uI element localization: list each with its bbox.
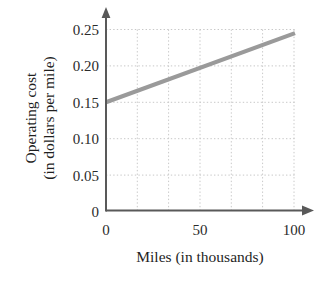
y-tick-label-0: 0	[92, 204, 100, 220]
y-tick-label-0.05: 0.05	[73, 168, 99, 184]
x-tick-label-50: 50	[193, 222, 208, 238]
y-axis-title-line1: Operating cost	[22, 72, 39, 164]
x-tick-label-100: 100	[283, 222, 306, 238]
y-tick-label-0.20: 0.20	[73, 58, 99, 74]
operating-cost-line-chart: 0.25 0.20 0.15 0.10 0.05 0 0 50 100 Mile…	[0, 0, 320, 281]
y-tick-label-0.25: 0.25	[73, 22, 99, 38]
chart-figure: 0.25 0.20 0.15 0.10 0.05 0 0 50 100 Mile…	[0, 0, 320, 281]
y-tick-label-0.10: 0.10	[73, 131, 99, 147]
x-axis-title: Miles (in thousands)	[136, 248, 263, 266]
y-axis-title-line2: (in dollars per mile)	[40, 56, 58, 180]
x-tick-label-0: 0	[102, 222, 110, 238]
y-tick-label-0.15: 0.15	[73, 95, 99, 111]
